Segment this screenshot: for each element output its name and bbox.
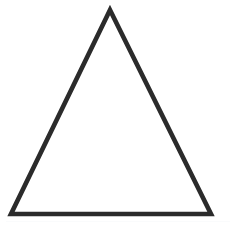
canvas-background: [0, 0, 236, 238]
figure-canvas: [0, 0, 236, 238]
triangle-drawing: [0, 0, 236, 238]
